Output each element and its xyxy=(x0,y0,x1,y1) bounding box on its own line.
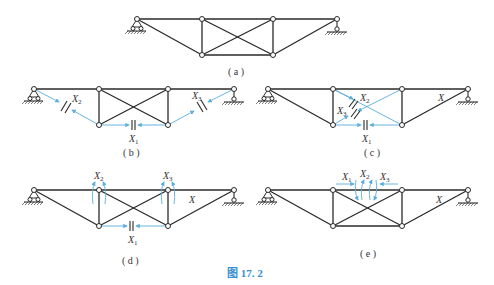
svg-text:X2: X2 xyxy=(71,93,82,106)
svg-text:X1: X1 xyxy=(341,171,352,184)
svg-text:X1: X1 xyxy=(128,133,139,146)
svg-text:X3: X3 xyxy=(336,105,347,118)
svg-text:X2: X2 xyxy=(359,168,370,181)
caption-d: ( d ) xyxy=(122,255,139,267)
svg-text:X1: X1 xyxy=(361,133,372,146)
svg-text:X3: X3 xyxy=(191,90,202,103)
truss-figure: ( a ) X2 X3 X1 xyxy=(0,0,494,285)
svg-text:X3: X3 xyxy=(379,171,390,184)
caption-b: ( b ) xyxy=(123,147,140,159)
svg-text:X3: X3 xyxy=(162,170,173,183)
figure-caption: 图 17. 2 xyxy=(227,267,263,279)
caption-c: ( c ) xyxy=(364,147,380,159)
svg-text:X2: X2 xyxy=(93,170,104,183)
subfigure-b: X2 X3 X1 ( b ) xyxy=(22,87,244,160)
subfigure-a: ( a ) xyxy=(125,17,347,79)
svg-text:X1: X1 xyxy=(127,234,138,247)
subfigure-d: X2 X3 X1 X ( d ) xyxy=(22,170,244,267)
caption-a: ( a ) xyxy=(228,66,244,78)
subfigure-c: X2 X3 X1 X ( c ) xyxy=(256,87,478,160)
svg-text:X: X xyxy=(437,92,445,103)
caption-e: ( e ) xyxy=(360,248,376,260)
subfigure-e: X1 X2 X3 X ( e ) xyxy=(256,168,478,260)
svg-text:X: X xyxy=(435,194,443,205)
svg-text:X: X xyxy=(188,194,196,205)
